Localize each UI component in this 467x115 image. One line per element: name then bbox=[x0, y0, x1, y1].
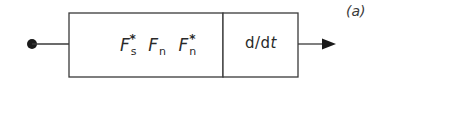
operator-term: Fn* bbox=[178, 33, 195, 57]
derivative-operator-label: d/dt bbox=[245, 36, 277, 51]
term-base: F bbox=[120, 35, 130, 55]
fourier-operator-label: Fs* Fn Fn* bbox=[120, 33, 202, 57]
term-subscript: n bbox=[189, 45, 196, 58]
term-subscript: n bbox=[159, 45, 166, 58]
operator-term: Fn bbox=[148, 37, 166, 57]
term-base: F bbox=[178, 35, 188, 55]
output-arrow-icon bbox=[322, 39, 336, 50]
derivative-prefix: d/d bbox=[245, 34, 271, 52]
term-superscript: * bbox=[130, 32, 136, 46]
term-subscript: s bbox=[131, 45, 137, 58]
term-superscript: * bbox=[189, 32, 195, 46]
derivative-variable: t bbox=[271, 34, 277, 52]
term-base: F bbox=[148, 35, 158, 55]
operator-term: Fs* bbox=[120, 33, 136, 57]
figure-caption: (a) bbox=[346, 4, 366, 18]
block-diagram bbox=[0, 0, 467, 115]
